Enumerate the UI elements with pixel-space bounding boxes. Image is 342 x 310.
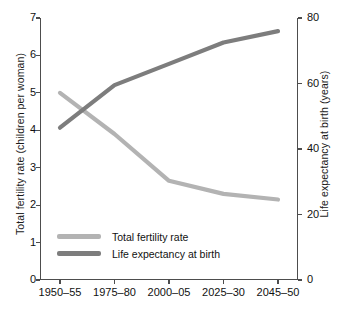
legend-label: Total fertility rate <box>112 231 188 243</box>
right-tick-mark <box>298 279 302 280</box>
right-axis-tick-labels: 020406080 <box>304 0 330 310</box>
right-tick-label: 20 <box>307 209 319 220</box>
legend-swatch <box>57 251 101 255</box>
x-tick-label: 2045–50 <box>257 286 300 298</box>
right-tick-label: 40 <box>307 143 319 154</box>
x-tick-mark <box>277 280 278 284</box>
legend-swatch <box>57 234 101 238</box>
x-tick-mark <box>59 280 60 284</box>
legend-item: Life expectancy at birth <box>57 245 220 262</box>
x-tick-label: 2025–30 <box>202 286 245 298</box>
right-tick-label: 60 <box>307 78 319 89</box>
left-tick-mark <box>36 55 40 56</box>
left-tick-mark <box>36 242 40 243</box>
right-tick-mark <box>298 17 302 18</box>
left-tick-mark <box>36 279 40 280</box>
fertility-life-expectancy-chart: Total fertility rate (children per woman… <box>0 0 342 310</box>
chart-legend: Total fertility rateLife expectancy at b… <box>57 228 220 262</box>
x-tick-label: 1975–80 <box>93 286 136 298</box>
left-axis-tick-labels: 01234567 <box>12 0 38 310</box>
left-tick-mark <box>36 130 40 131</box>
series-line-life-expectancy-at-birth <box>60 31 278 128</box>
left-tick-mark <box>36 167 40 168</box>
right-tick-mark <box>298 214 302 215</box>
right-tick-mark <box>298 83 302 84</box>
x-tick-mark <box>114 280 115 284</box>
x-tick-label: 1950–55 <box>39 286 82 298</box>
legend-label: Life expectancy at birth <box>112 248 220 260</box>
right-tick-mark <box>298 148 302 149</box>
right-tick-label: 0 <box>307 274 313 285</box>
left-tick-mark <box>36 205 40 206</box>
x-tick-mark <box>223 280 224 284</box>
left-tick-mark <box>36 92 40 93</box>
left-tick-mark <box>36 17 40 18</box>
x-axis-tick-labels: 1950–551975–802000–052025–302045–50 <box>40 286 298 304</box>
x-tick-label: 2000–05 <box>148 286 191 298</box>
right-tick-label: 80 <box>307 12 319 23</box>
legend-item: Total fertility rate <box>57 228 220 245</box>
x-tick-mark <box>168 280 169 284</box>
series-line-total-fertility-rate <box>60 93 278 200</box>
